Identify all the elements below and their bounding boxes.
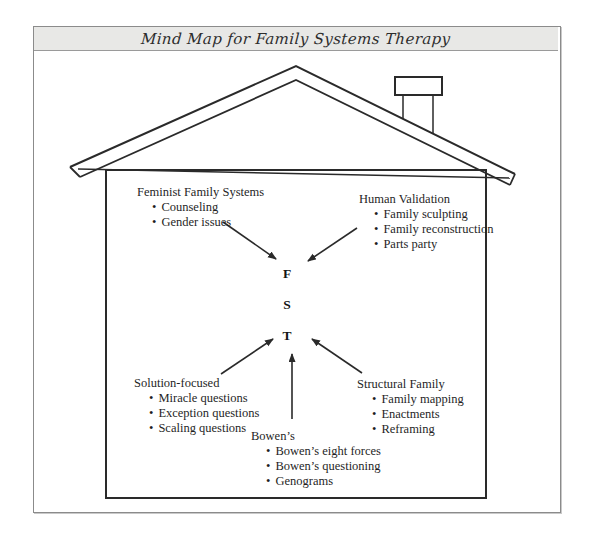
note-items: Counseling Gender issues: [137, 200, 264, 230]
letter-s: S: [278, 289, 296, 320]
note-title: Human Validation: [359, 192, 493, 207]
roof-shape: [70, 66, 515, 185]
note-item: Family sculpting: [374, 207, 493, 222]
note-items: Family mapping Enactments Reframing: [357, 392, 464, 437]
note-items: Bowen’s eight forces Bowen’s questioning…: [251, 444, 381, 489]
note-item: Genograms: [266, 474, 381, 489]
note-item: Counseling: [152, 200, 264, 215]
note-title: Solution-focused: [134, 376, 259, 391]
note-item: Parts party: [374, 237, 493, 252]
note-title: Feminist Family Systems: [137, 185, 264, 200]
note-item: Bowen’s questioning: [266, 459, 381, 474]
note-title: Structural Family: [357, 377, 464, 392]
center-acronym: F S T: [278, 258, 296, 351]
note-human-validation: Human Validation Family sculpting Family…: [359, 192, 493, 252]
note-item: Family reconstruction: [374, 222, 493, 237]
note-solution-focused: Solution-focused Miracle questions Excep…: [134, 376, 259, 436]
note-item: Family mapping: [372, 392, 464, 407]
arrow-solution-to-center: [221, 339, 273, 374]
note-item: Miracle questions: [149, 391, 259, 406]
note-items: Miracle questions Exception questions Sc…: [134, 391, 259, 436]
note-item: Enactments: [372, 407, 464, 422]
letter-t: T: [278, 320, 296, 351]
arrow-structural-to-center: [312, 339, 362, 373]
note-item: Scaling questions: [149, 421, 259, 436]
mind-map-page: Mind Map for Family Systems Therapy: [0, 0, 590, 537]
note-item: Exception questions: [149, 406, 259, 421]
note-item: Gender issues: [152, 215, 264, 230]
arrow-human-to-center: [308, 228, 357, 261]
note-feminist-family-systems: Feminist Family Systems Counseling Gende…: [137, 185, 264, 230]
letter-f: F: [278, 258, 296, 289]
note-item: Reframing: [372, 422, 464, 437]
note-bowens: Bowen’s Bowen’s eight forces Bowen’s que…: [251, 429, 381, 489]
note-structural-family: Structural Family Family mapping Enactme…: [357, 377, 464, 437]
note-item: Bowen’s eight forces: [266, 444, 381, 459]
note-items: Family sculpting Family reconstruction P…: [359, 207, 493, 252]
chimney-shape: [395, 77, 442, 133]
